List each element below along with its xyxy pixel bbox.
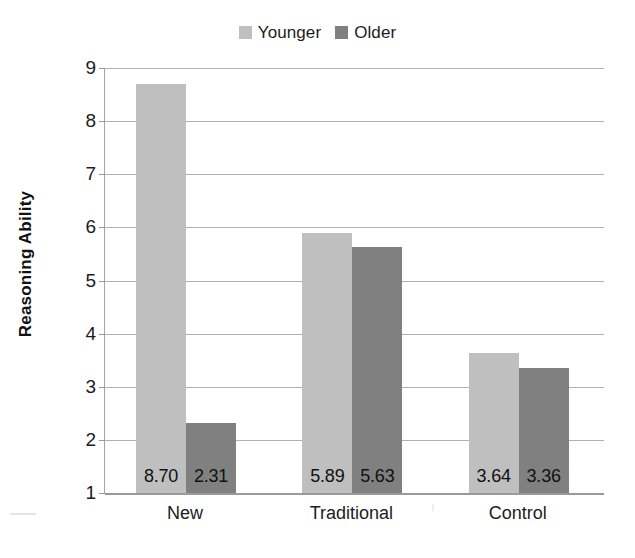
- bars-layer: 8.702.315.895.633.643.36: [105, 68, 604, 493]
- y-axis-title: Reasoning Ability: [6, 0, 46, 558]
- x-axis-category-label: Traditional: [271, 503, 431, 524]
- y-axis-tick-label: 8: [85, 110, 96, 132]
- legend-swatch-younger: [239, 26, 252, 39]
- bar-chart: Younger Older Reasoning Ability 12345678…: [0, 0, 635, 558]
- x-axis-category-label: Control: [438, 503, 598, 524]
- y-axis-tick-label: 7: [85, 163, 96, 185]
- bar-value-label: 3.36: [519, 466, 569, 487]
- y-axis-title-text: Reasoning Ability: [16, 191, 36, 337]
- bar-older-traditional: 5.63: [352, 247, 402, 493]
- y-axis-tick-label: 9: [85, 57, 96, 79]
- bar-older-new: 2.31: [186, 423, 236, 493]
- y-axis-tick-label: 6: [85, 216, 96, 238]
- bar-value-label: 8.70: [136, 466, 186, 487]
- y-axis-tick-label: 4: [85, 323, 96, 345]
- gridline: [105, 493, 604, 495]
- bar-value-label: 5.63: [352, 466, 402, 487]
- legend-swatch-older: [335, 26, 348, 39]
- y-axis-tick-label: 5: [85, 270, 96, 292]
- bar-younger-new: 8.70: [136, 84, 186, 493]
- y-axis-tick: [99, 493, 105, 494]
- bar-value-label: 3.64: [469, 466, 519, 487]
- scan-artifact: [432, 504, 434, 511]
- x-axis-category-label: New: [105, 503, 265, 524]
- legend-entry-younger: Younger: [239, 24, 321, 41]
- bar-value-label: 5.89: [302, 466, 352, 487]
- bar-value-label: 2.31: [186, 466, 236, 487]
- legend-label-younger: Younger: [258, 24, 321, 41]
- y-axis-tick-label: 3: [85, 376, 96, 398]
- bar-younger-traditional: 5.89: [302, 233, 352, 493]
- plot-area: 123456789 8.702.315.895.633.643.36: [104, 68, 604, 493]
- x-axis-categories: NewTraditionalControl: [104, 503, 603, 533]
- chart-legend: Younger Older: [0, 24, 635, 41]
- scan-artifact: [10, 513, 36, 515]
- bar-younger-control: 3.64: [469, 353, 519, 493]
- legend-entry-older: Older: [335, 24, 396, 41]
- y-axis-tick-label: 1: [85, 482, 96, 504]
- legend-label-older: Older: [354, 24, 396, 41]
- y-axis-tick-label: 2: [85, 429, 96, 451]
- bar-older-control: 3.36: [519, 368, 569, 493]
